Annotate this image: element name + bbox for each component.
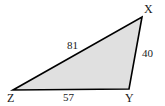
side-length-label-zy: 57 [63, 92, 74, 103]
vertex-label-x: X [144, 3, 153, 15]
triangle-polygon [13, 17, 142, 90]
vertex-label-z: Z [7, 92, 14, 104]
triangle-figure: X Y Z 81 40 57 [0, 0, 165, 106]
triangle-shape [0, 0, 165, 106]
vertex-label-y: Y [125, 92, 134, 104]
side-length-label-zx: 81 [67, 40, 78, 51]
side-length-label-xy: 40 [142, 48, 153, 59]
